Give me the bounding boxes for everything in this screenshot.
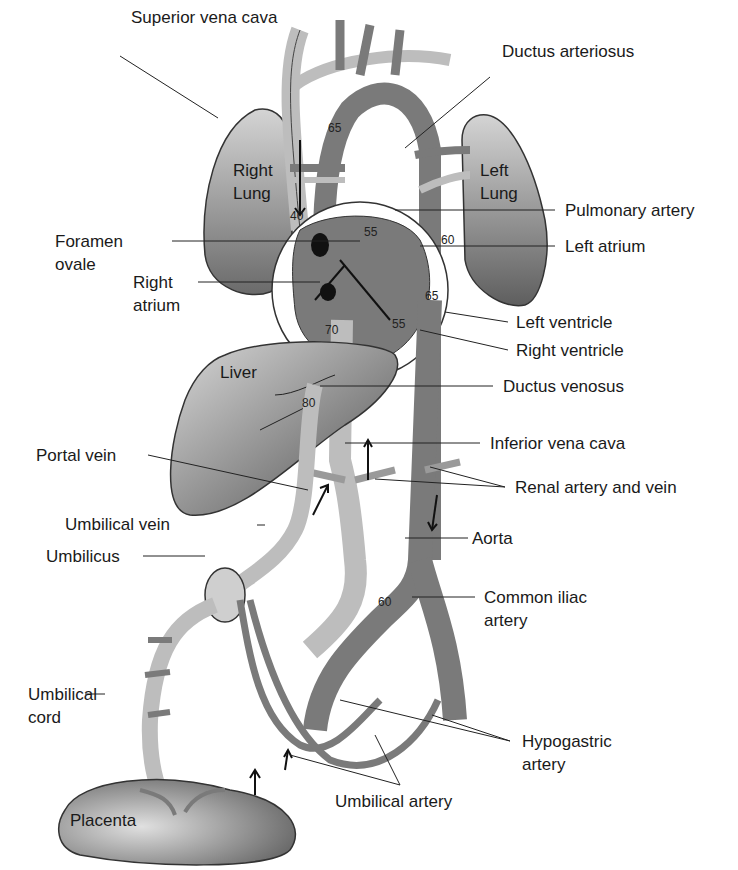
placenta-label: Placenta [70, 811, 137, 830]
label-right-ventricle: Right ventricle [516, 341, 624, 360]
label-common-iliac-artery-2: artery [484, 611, 527, 630]
left-lung-label: Left [480, 161, 509, 180]
label-inferior-vena-cava: Inferior vena cava [490, 434, 625, 453]
label-ductus-arteriosus: Ductus arteriosus [502, 42, 634, 61]
label-right-atrium: Right [133, 273, 173, 292]
label-foramen-ovale-2: ovale [55, 255, 96, 274]
label-left-ventricle: Left ventricle [516, 313, 612, 332]
saturation-ivc: 70 [325, 323, 339, 337]
saturation-right-ventricle: 55 [392, 317, 406, 331]
left-lung-label-2: Lung [480, 184, 518, 203]
saturation-aortic-arch: 65 [328, 121, 342, 135]
label-umbilicus: Umbilicus [46, 547, 120, 566]
label-hypogastric-artery: Hypogastric [522, 732, 612, 751]
right-lung-label-2: Lung [233, 184, 271, 203]
label-ductus-venosus: Ductus venosus [503, 377, 624, 396]
label-umbilical-cord-2: cord [28, 708, 61, 727]
label-portal-vein: Portal vein [36, 446, 116, 465]
liver-label: Liver [220, 363, 257, 382]
upper-vessel-bar [295, 56, 450, 85]
label-left-atrium: Left atrium [565, 237, 645, 256]
label-common-iliac-artery: Common iliac [484, 588, 587, 607]
label-pulmonary-artery: Pulmonary artery [565, 201, 694, 220]
saturation-descending-aorta: 60 [441, 233, 455, 247]
saturation-left-ventricle: 65 [425, 289, 439, 303]
label-umbilical-artery: Umbilical artery [335, 792, 452, 811]
label-renal-artery-vein: Renal artery and vein [515, 478, 677, 497]
label-umbilical-cord: Umbilical [28, 685, 97, 704]
label-aorta: Aorta [472, 529, 513, 548]
saturation-abdominal-aorta: 60 [378, 595, 392, 609]
diagram-artwork: 65 40 55 60 65 55 70 80 60 Right Lung Le… [0, 0, 738, 870]
label-right-atrium-2: atrium [133, 296, 180, 315]
label-superior-vena-cava: Superior vena cava [131, 8, 277, 27]
label-foramen-ovale: Foramen [55, 232, 123, 251]
right-lung-label: Right [233, 161, 273, 180]
liver-shape [171, 342, 398, 515]
saturation-svc: 40 [290, 209, 304, 223]
saturation-ductus-venosus: 80 [302, 396, 316, 410]
saturation-pulmonary-trunk: 55 [364, 225, 378, 239]
label-umbilical-vein: Umbilical vein [65, 515, 170, 534]
label-hypogastric-artery-2: artery [522, 755, 565, 774]
fetal-circulation-diagram: 65 40 55 60 65 55 70 80 60 Right Lung Le… [0, 0, 738, 870]
